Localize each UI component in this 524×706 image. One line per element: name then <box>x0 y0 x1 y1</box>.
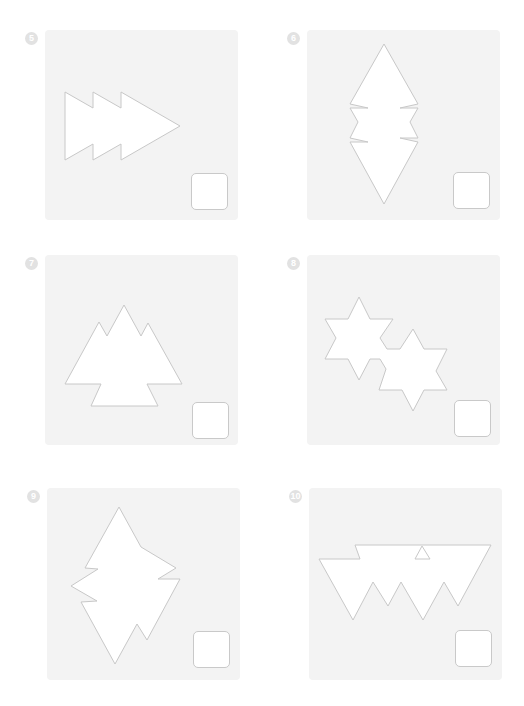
puzzle-item-8: 8 <box>262 235 524 470</box>
answer-box[interactable] <box>453 172 490 209</box>
puzzle-item-10: 10 <box>262 470 524 706</box>
puzzle-item-9: 9 <box>0 470 262 706</box>
answer-box[interactable] <box>454 400 491 437</box>
puzzle-item-6: 6 <box>262 0 524 235</box>
answer-box[interactable] <box>192 402 229 439</box>
answer-box[interactable] <box>193 631 230 668</box>
answer-box[interactable] <box>455 630 492 667</box>
puzzle-item-5: 5 <box>0 0 262 235</box>
answer-box[interactable] <box>191 173 228 210</box>
zigzag-trapezoid-figure <box>262 470 524 706</box>
jagged-diamond-figure <box>0 470 262 706</box>
puzzle-item-7: 7 <box>0 235 262 470</box>
